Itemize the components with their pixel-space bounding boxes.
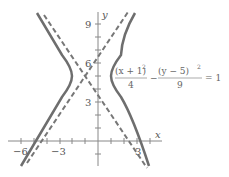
svg-text:4: 4 — [128, 80, 134, 90]
x-tick-label-neg6: −6 — [13, 146, 28, 157]
y-tick-label-3: 3 — [85, 97, 91, 108]
x-axis-label: x — [155, 129, 161, 140]
y-tick-label-6: 6 — [85, 58, 91, 69]
x-tick-label-neg3: −3 — [51, 146, 66, 157]
svg-text:= 1: = 1 — [205, 73, 221, 83]
svg-text:2: 2 — [197, 63, 201, 70]
svg-text:2: 2 — [142, 63, 146, 70]
svg-text:(y − 5): (y − 5) — [158, 66, 189, 76]
svg-text:−: − — [150, 73, 158, 83]
equation-label: (x + 1) 2 4 − (y − 5) 2 9 = 1 — [115, 63, 221, 90]
y-tick-label-9: 9 — [85, 19, 91, 30]
asymptotes — [27, 12, 147, 168]
x-tick-label-3: 3 — [135, 146, 141, 157]
asymptote-rising — [27, 12, 128, 163]
y-axis-label: y — [101, 9, 108, 20]
hyperbola-chart: −6 −3 3 3 6 9 x y (x + 1) 2 4 − (y − 5) … — [0, 0, 229, 177]
svg-text:9: 9 — [177, 80, 183, 90]
